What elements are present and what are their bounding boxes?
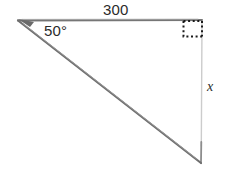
angle-measure-label: 50°	[44, 23, 67, 38]
right-angle-marker-edge-icon	[184, 21, 203, 37]
side-hypotenuse-highlight	[23, 24, 197, 160]
top-side-length-label: 300	[103, 2, 129, 17]
geometry-figure: 300 50° x	[0, 0, 225, 174]
side-top	[18, 20, 202, 21]
triangle-drawing	[0, 0, 225, 174]
unknown-side-label: x	[207, 80, 213, 94]
side-hypotenuse	[18, 21, 201, 164]
side-right-vertical	[201, 22, 202, 146]
right-angle-marker-icon	[184, 21, 203, 37]
